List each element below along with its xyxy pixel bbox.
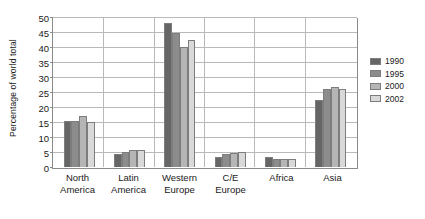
y-tick-label: 25: [38, 88, 49, 98]
legend-swatch-icon: [370, 70, 381, 77]
y-tick-mark: [50, 47, 53, 48]
x-axis-label-line1: Asia: [323, 172, 341, 183]
y-tick-mark: [50, 167, 53, 168]
y-tick-label: 35: [38, 58, 49, 68]
y-tick-mark: [50, 77, 53, 78]
x-axis-label: Africa: [256, 172, 307, 196]
y-tick-mark: [50, 62, 53, 63]
y-tick-label: 5: [44, 148, 49, 158]
bar-1990-ceeurope: [215, 157, 223, 167]
x-axis-label-line1: Africa: [269, 172, 293, 183]
x-axis-label-line2: Europe: [154, 184, 205, 196]
y-tick-label: 10: [38, 133, 49, 143]
bar-2000-latinamerica: [129, 150, 137, 167]
y-tick-label: 0: [44, 163, 49, 173]
legend-swatch-icon: [370, 58, 381, 65]
bar-2002-ceeurope: [238, 152, 246, 167]
x-axis-label-line2: America: [103, 184, 154, 196]
x-axis-label-line2: America: [52, 184, 103, 196]
bar-2002-africa: [288, 159, 296, 167]
bar-group: [205, 18, 255, 167]
bars: [114, 18, 145, 167]
bar-1990-westerneurope: [164, 23, 172, 167]
x-axis-label-line1: North: [66, 172, 89, 183]
bar-2000-westerneurope: [180, 47, 188, 167]
bar-2002-westerneurope: [188, 40, 196, 167]
y-tick-mark: [50, 92, 53, 93]
bar-2002-latinamerica: [137, 150, 145, 167]
y-tick-label: 30: [38, 73, 49, 83]
x-axis-label: WesternEurope: [154, 172, 205, 196]
x-axis-label-line1: Latin: [118, 172, 139, 183]
x-axis-label-line1: Western: [162, 172, 197, 183]
legend-label: 2002: [385, 95, 404, 104]
legend-item-2002[interactable]: 2002: [370, 95, 404, 104]
legend-label: 1990: [385, 57, 404, 66]
bar-2000-ceeurope: [230, 153, 238, 167]
bars: [164, 18, 195, 167]
x-axis-label-line1: C/E: [223, 172, 239, 183]
bar-group: [155, 18, 205, 167]
bar-groups: [54, 18, 356, 167]
x-axis-label: NorthAmerica: [52, 172, 103, 196]
legend-item-1990[interactable]: 1990: [370, 57, 404, 66]
bar-2002-asia: [339, 89, 347, 167]
y-tick-mark: [50, 137, 53, 138]
x-axis-label-line2: Europe: [205, 184, 256, 196]
bar-2000-northamerica: [79, 116, 87, 167]
plot-area: 05101520253035404550: [52, 18, 358, 169]
x-axis-label: Asia: [307, 172, 358, 196]
legend-label: 2000: [385, 82, 404, 91]
legend-swatch-icon: [370, 95, 381, 102]
bar-1995-ceeurope: [222, 154, 230, 167]
gridline: [53, 167, 357, 168]
bar-1995-latinamerica: [122, 152, 130, 167]
bar-1995-northamerica: [71, 121, 79, 167]
x-axis-labels: NorthAmericaLatinAmericaWesternEuropeC/E…: [52, 172, 358, 196]
legend-item-2000[interactable]: 2000: [370, 82, 404, 91]
bar-2000-africa: [280, 159, 288, 167]
plot-wrapper: 05101520253035404550: [52, 18, 358, 169]
bar-1990-northamerica: [64, 121, 72, 167]
bars: [64, 18, 95, 167]
bar-2002-northamerica: [87, 122, 95, 167]
legend-swatch-icon: [370, 83, 381, 90]
bar-chart: Percentage of world total 05101520253035…: [0, 0, 425, 219]
y-tick-label: 45: [38, 28, 49, 38]
y-tick-mark: [50, 32, 53, 33]
y-axis-title: Percentage of world total: [2, 0, 24, 175]
x-axis-label: C/EEurope: [205, 172, 256, 196]
y-tick-label: 40: [38, 43, 49, 53]
chart-legend: 1990199520002002: [370, 57, 404, 103]
legend-label: 1995: [385, 70, 404, 79]
bar-2000-asia: [331, 87, 339, 167]
x-axis-label: LatinAmerica: [103, 172, 154, 196]
y-tick-mark: [50, 122, 53, 123]
bar-1995-africa: [273, 159, 281, 167]
y-axis-title-text: Percentage of world total: [8, 39, 18, 137]
bar-group: [306, 18, 356, 167]
bar-group: [255, 18, 305, 167]
y-tick-mark: [50, 17, 53, 18]
bar-1995-westerneurope: [172, 33, 180, 167]
y-tick-mark: [50, 152, 53, 153]
legend-item-1995[interactable]: 1995: [370, 70, 404, 79]
y-tick-label: 50: [38, 13, 49, 23]
bar-1990-africa: [265, 157, 273, 167]
y-tick-label: 20: [38, 103, 49, 113]
bar-group: [54, 18, 104, 167]
bars: [215, 18, 246, 167]
bars: [265, 18, 296, 167]
y-tick-label: 15: [38, 118, 49, 128]
bar-1990-latinamerica: [114, 154, 122, 167]
y-tick-mark: [50, 107, 53, 108]
bars: [315, 18, 346, 167]
bar-1995-asia: [323, 89, 331, 167]
bar-1990-asia: [315, 100, 323, 167]
bar-group: [104, 18, 154, 167]
